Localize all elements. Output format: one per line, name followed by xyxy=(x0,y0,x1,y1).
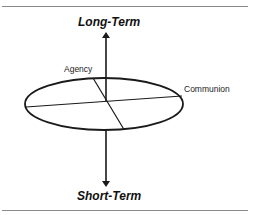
long-term-label: Long-Term xyxy=(78,15,140,29)
short-term-label: Short-Term xyxy=(77,189,141,203)
bottom-rule xyxy=(2,210,248,211)
agency-label: Agency xyxy=(64,64,92,74)
communion-axis-line xyxy=(26,96,182,107)
diagram-canvas xyxy=(0,0,258,215)
agency-axis-line xyxy=(93,78,124,130)
communion-label: Communion xyxy=(184,84,230,94)
plane-ellipse xyxy=(25,78,183,130)
